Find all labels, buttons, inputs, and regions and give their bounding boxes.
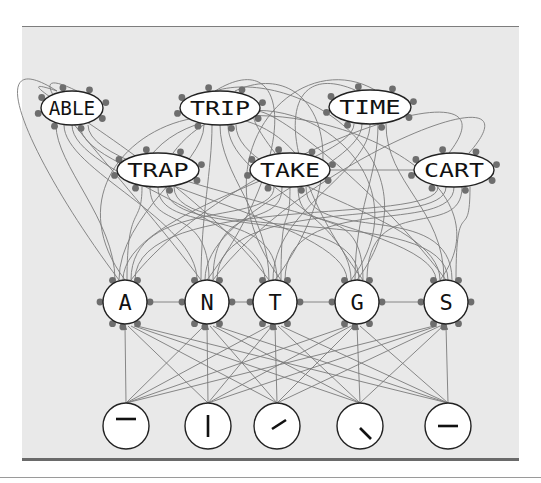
word-label: TRIP [190, 96, 250, 120]
letter-node-A: A [103, 280, 147, 324]
letter-label: T [268, 290, 281, 315]
word-label: TAKE [260, 158, 320, 182]
word-label: TIME [339, 95, 401, 119]
word-node-time: TIME [329, 90, 411, 124]
network-diagram: ABLETRIPTIMETRAPTAKECART ANTGS [0, 0, 541, 483]
word-label: ABLE [49, 96, 96, 120]
letter-node-T: T [253, 280, 297, 324]
letter-node-S: S [424, 280, 468, 324]
feature-node-horizontal-middle-icon [425, 403, 471, 449]
letter-node-G: G [335, 280, 379, 324]
word-layer: ABLETRIPTIMETRAPTAKECART [41, 90, 494, 187]
letter-label: N [200, 290, 213, 315]
feature-node-horizontal-top-icon [103, 403, 149, 449]
feature-node-vertical-icon [185, 403, 231, 449]
word-node-able: ABLE [41, 91, 103, 125]
feature-node-diagonal-up-icon [254, 403, 300, 449]
feature-layer [103, 403, 471, 449]
letter-label: G [350, 290, 363, 315]
word-node-take: TAKE [250, 153, 330, 187]
letter-label: A [118, 290, 131, 315]
letter-node-N: N [185, 280, 229, 324]
feature-node-diagonal-down-icon [337, 403, 383, 449]
connection-edges [17, 79, 484, 403]
word-node-trip: TRIP [180, 91, 260, 125]
word-label: TRAP [127, 158, 189, 182]
word-node-trap: TRAP [117, 153, 199, 187]
letter-label: S [439, 290, 452, 315]
word-label: CART [424, 158, 484, 182]
word-node-cart: CART [414, 153, 494, 187]
